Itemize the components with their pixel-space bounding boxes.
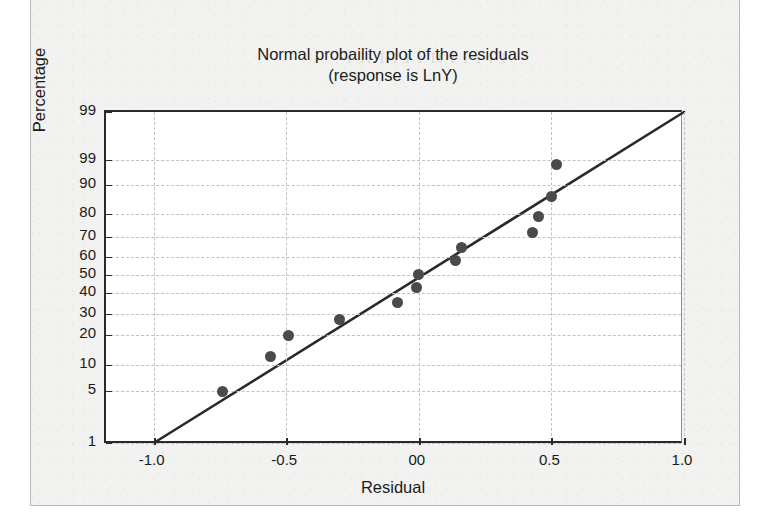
- y-gridline: [106, 275, 681, 276]
- x-gridline: [286, 112, 287, 441]
- x-axis-tick: [551, 438, 553, 445]
- y-axis-tick-label: 50: [56, 265, 96, 280]
- y-axis-tick-label: 40: [56, 283, 96, 298]
- data-point: [283, 330, 294, 341]
- x-axis-tick: [154, 438, 156, 445]
- x-axis-tick-label: 00: [387, 451, 447, 468]
- y-gridline: [106, 214, 681, 215]
- x-axis-tick-label: 0.5: [519, 451, 579, 468]
- y-gridline: [106, 160, 681, 161]
- data-point: [533, 211, 544, 222]
- data-point: [334, 314, 345, 325]
- screenshot-root: I II I I I I II I I I I I Normal probail…: [0, 0, 780, 526]
- y-axis-tick-label: 5: [56, 381, 96, 396]
- x-axis-tick-label: -0.5: [254, 451, 314, 468]
- y-axis-tick: [106, 365, 112, 366]
- x-axis-tick: [684, 438, 686, 445]
- data-point: [217, 386, 228, 397]
- y-axis-tick: [106, 335, 112, 336]
- y-axis-tick: [106, 314, 112, 315]
- data-point: [546, 191, 557, 202]
- y-axis-tick: [106, 391, 112, 392]
- y-gridline: [106, 257, 681, 258]
- y-axis-tick-label: 99: [56, 102, 96, 117]
- y-gridline: [106, 314, 681, 315]
- x-axis-title: Residual: [104, 478, 682, 497]
- plot-inner: [106, 112, 681, 441]
- y-axis-tick-label: 10: [56, 355, 96, 370]
- chart-title-line1: Normal probaility plot of the residuals: [257, 45, 528, 63]
- data-point: [551, 159, 562, 170]
- data-point: [456, 242, 467, 253]
- x-axis-tick: [286, 438, 288, 445]
- x-axis-tick: [419, 438, 421, 445]
- y-gridline: [106, 293, 681, 294]
- y-axis-tick: [106, 293, 112, 294]
- y-axis-tick: [106, 112, 112, 113]
- data-point: [413, 269, 424, 280]
- y-axis-title: Percentage: [30, 0, 49, 180]
- y-gridline: [106, 185, 681, 186]
- plot-area: [104, 110, 682, 443]
- y-gridline: [106, 365, 681, 366]
- y-axis-tick: [106, 275, 112, 276]
- x-axis-tick-label: 1.0: [652, 451, 712, 468]
- y-gridline: [106, 335, 681, 336]
- y-gridline: [106, 237, 681, 238]
- data-point: [265, 351, 276, 362]
- y-axis-tick: [106, 160, 112, 161]
- y-axis-tick-label: 99: [56, 150, 96, 165]
- y-axis-tick-label: 70: [56, 227, 96, 242]
- y-axis-tick: [106, 237, 112, 238]
- y-axis-tick: [106, 185, 112, 186]
- x-gridline: [154, 112, 155, 441]
- chart-title: Normal probaility plot of the residuals(…: [104, 44, 682, 86]
- y-axis-tick-label: 30: [56, 304, 96, 319]
- y-axis-tick: [106, 257, 112, 258]
- y-axis-tick-label: 20: [56, 325, 96, 340]
- y-axis-tick-label: 1: [56, 433, 96, 448]
- y-gridline: [106, 391, 681, 392]
- x-gridline: [684, 112, 685, 441]
- data-point: [411, 282, 422, 293]
- y-axis-tick: [106, 214, 112, 215]
- chart-title-line2: (response is LnY): [328, 66, 457, 84]
- y-axis-tick-label: 60: [56, 247, 96, 262]
- x-axis-tick-label: -1.0: [122, 451, 182, 468]
- data-point: [392, 297, 403, 308]
- y-axis-tick-label: 90: [56, 175, 96, 190]
- fitted-reference-line: [106, 112, 684, 445]
- y-gridline: [106, 443, 681, 444]
- y-axis-tick-label: 80: [56, 204, 96, 219]
- y-axis-tick: [106, 443, 112, 444]
